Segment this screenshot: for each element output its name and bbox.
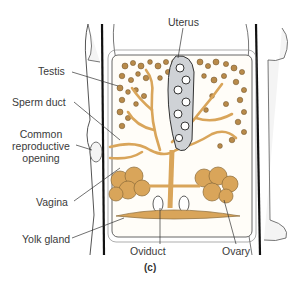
label-oviduct: Oviduct — [130, 245, 166, 257]
shell-gland-left — [153, 196, 163, 212]
panel-label: (c) — [144, 262, 156, 273]
label-common-reproductive-opening: Common reproductive opening — [6, 128, 76, 164]
label-ovary: Ovary — [222, 245, 250, 257]
label-yolk-gland: Yolk gland — [22, 233, 70, 245]
label-sperm-duct: Sperm duct — [12, 96, 66, 108]
shell-gland-right — [179, 196, 189, 212]
label-testis: Testis — [38, 65, 65, 77]
genital-pore — [90, 142, 102, 162]
label-uterus: Uterus — [168, 16, 199, 28]
oviduct — [170, 150, 172, 208]
label-vagina: Vagina — [36, 196, 68, 208]
